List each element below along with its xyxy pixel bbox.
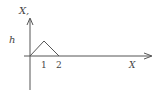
triangle-pulse bbox=[30, 41, 59, 56]
diagram-canvas: X, h 1 2 X bbox=[0, 0, 159, 94]
x-tick-2: 2 bbox=[56, 60, 62, 70]
x-tick-1: 1 bbox=[41, 60, 47, 70]
x-axis-label: X bbox=[128, 60, 136, 70]
height-label: h bbox=[9, 34, 15, 45]
y-axis-label: X, bbox=[18, 5, 29, 16]
